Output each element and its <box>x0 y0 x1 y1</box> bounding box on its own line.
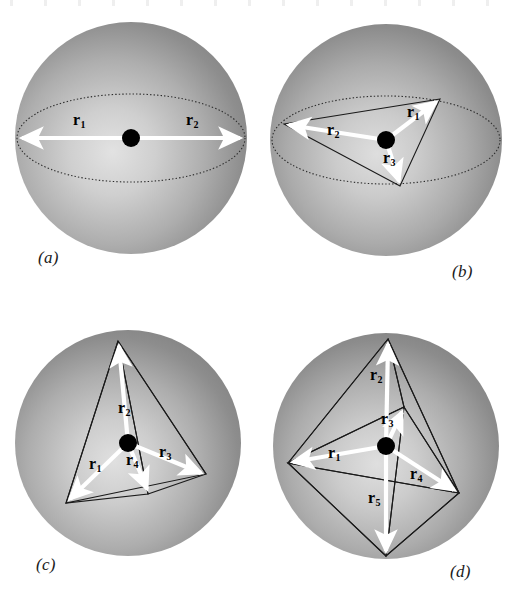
panel-a-sphere-group <box>15 22 247 254</box>
panel-letter-a: (a) <box>38 248 59 268</box>
vector-label-c-r3: r3 <box>159 444 171 460</box>
panel-d-sphere-group <box>273 333 499 559</box>
vector-label-a-r1: r1 <box>73 112 85 128</box>
vector-label-c-r1: r1 <box>89 456 101 472</box>
vector-label-d-r2: r2 <box>370 367 382 383</box>
figure-svg <box>0 0 509 592</box>
center-dot-c <box>119 434 137 452</box>
vector-label-a-r2: r2 <box>186 112 198 128</box>
center-dot-d <box>377 437 395 455</box>
panel-letter-d: (d) <box>450 562 471 582</box>
center-dot-b <box>377 131 395 149</box>
vector-label-d-r5: r5 <box>368 490 380 506</box>
vector-label-b-r2: r2 <box>327 122 339 138</box>
vector-label-b-r1: r1 <box>407 104 419 120</box>
vector-d-r2 <box>386 344 388 446</box>
vector-label-d-r3: r3 <box>381 411 393 427</box>
vector-label-c-r2: r2 <box>118 400 130 416</box>
panel-b-sphere-group <box>270 24 502 256</box>
vector-label-c-r4: r4 <box>126 452 138 468</box>
figure-canvas: r1 r2 r1 r2 r3 r1 r2 r3 r4 r1 r2 r3 r4 r… <box>0 0 509 592</box>
panel-letter-c: (c) <box>36 555 56 575</box>
center-dot-a <box>122 129 140 147</box>
vector-label-b-r3: r3 <box>383 150 395 166</box>
panel-letter-b: (b) <box>452 262 473 282</box>
vector-label-d-r4: r4 <box>410 466 422 482</box>
panel-c-sphere-group <box>15 330 241 556</box>
vector-label-d-r1: r1 <box>328 445 340 461</box>
scan-artifact-strip <box>0 0 509 6</box>
